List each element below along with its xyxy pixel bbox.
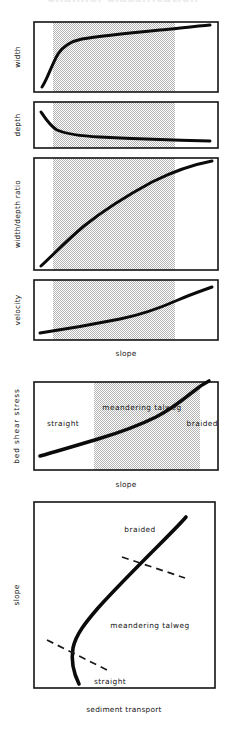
- panel-width: width: [13, 22, 218, 92]
- panel-depth-stipple-band: [53, 102, 175, 148]
- panel-slope-sediment-transport-label-meandering: meandering talweg: [110, 621, 189, 630]
- panel-bed-shear-stress: bed shear stress straight meandering tal…: [12, 381, 218, 489]
- panel-width-depth-ratio-ylabel: width/depth ratio: [13, 180, 22, 248]
- panel-depth: depth: [13, 102, 218, 148]
- figure-root: Channel Classification width depth: [0, 0, 245, 747]
- panel-bed-shear-stress-ylabel: bed shear stress: [12, 388, 21, 464]
- panel-width-ylabel: width: [13, 46, 22, 68]
- panel-slope-sediment-transport-boundary-curve: [72, 517, 186, 684]
- panel-velocity-ylabel: velocity: [13, 294, 22, 325]
- panel-slope-sediment-transport: slope braided meandering talweg straight…: [12, 502, 215, 714]
- panel-slope-sediment-transport-dashed-lower: [47, 640, 107, 670]
- panel-depth-ylabel: depth: [13, 114, 22, 137]
- panel-bed-shear-stress-stipple-band: [94, 382, 200, 470]
- panel-bed-shear-stress-label-braided: braided: [187, 419, 218, 428]
- panel-slope-sediment-transport-label-straight: straight: [94, 677, 126, 686]
- panel-velocity: velocity slope: [13, 280, 218, 358]
- panel-width-stipple-band: [53, 22, 175, 92]
- panel-slope-sediment-transport-xlabel: sediment transport: [86, 705, 161, 714]
- panel-bed-shear-stress-xlabel: slope: [116, 480, 137, 489]
- figure-canvas: width depth width/depth ratio velocity s…: [0, 0, 245, 747]
- panel-bed-shear-stress-label-meandering: meandering talweg: [102, 403, 181, 412]
- panel-width-depth-ratio-stipple-band: [53, 158, 175, 270]
- panel-bed-shear-stress-label-straight: straight: [47, 419, 79, 428]
- panel-slope-sediment-transport-label-braided: braided: [124, 525, 155, 534]
- panel-slope-sediment-transport-ylabel: slope: [12, 584, 21, 605]
- panel-velocity-xlabel: slope: [116, 349, 137, 358]
- panel-width-depth-ratio: width/depth ratio: [13, 158, 218, 270]
